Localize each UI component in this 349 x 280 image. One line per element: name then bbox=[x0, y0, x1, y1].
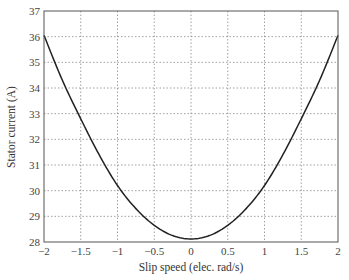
y-tick-label: 37 bbox=[29, 5, 41, 17]
y-tick-label: 28 bbox=[29, 236, 41, 248]
y-tick-label: 32 bbox=[29, 133, 40, 145]
y-axis-ticks: 28293031323334353637 bbox=[29, 5, 41, 248]
y-tick-label: 34 bbox=[29, 82, 41, 94]
y-tick-label: 35 bbox=[29, 56, 41, 68]
x-tick-label: 1.5 bbox=[294, 245, 308, 257]
y-tick-label: 29 bbox=[29, 210, 41, 222]
stator-current-chart: −2−1.5−1−0.500.511.52 282930313233343536… bbox=[0, 0, 349, 280]
y-tick-label: 31 bbox=[29, 159, 40, 171]
x-tick-label: −0.5 bbox=[144, 245, 164, 257]
x-tick-label: −1.5 bbox=[71, 245, 91, 257]
x-tick-label: −1 bbox=[112, 245, 124, 257]
y-tick-label: 36 bbox=[29, 31, 41, 43]
x-tick-label: 0.5 bbox=[221, 245, 235, 257]
x-tick-label: 0 bbox=[188, 245, 194, 257]
y-tick-label: 30 bbox=[29, 185, 41, 197]
x-tick-label: 1 bbox=[262, 245, 268, 257]
y-axis-label: Stator current (A) bbox=[5, 86, 18, 168]
grid-lines bbox=[44, 11, 338, 242]
x-axis-label: Slip speed (elec. rad/s) bbox=[139, 261, 244, 274]
x-axis-ticks: −2−1.5−1−0.500.511.52 bbox=[38, 245, 341, 257]
y-tick-label: 33 bbox=[29, 108, 41, 120]
x-tick-label: 2 bbox=[335, 245, 341, 257]
